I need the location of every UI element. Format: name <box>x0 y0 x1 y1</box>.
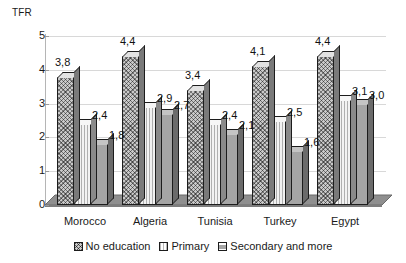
value-label-morocco-secondary-and-more: 1,8 <box>109 130 124 141</box>
y-tick-label-5: 5 <box>23 30 45 41</box>
tfr-bar-chart: TFR 543210 3,82,41,84,42,92,73,42,42,14,… <box>0 0 406 263</box>
legend-swatch-icon <box>74 242 83 251</box>
y-tick-label-1: 1 <box>23 165 45 176</box>
bar-side-face <box>368 93 374 204</box>
bar-turkey-no-education <box>252 66 269 205</box>
bar-morocco-no-education <box>57 77 74 205</box>
value-label-algeria-no-education: 4,4 <box>120 36 135 47</box>
bar-side-face <box>108 133 114 204</box>
value-label-morocco-primary: 2,4 <box>92 110 107 121</box>
y-tick-mark-0 <box>45 205 49 206</box>
y-tick-label-4: 4 <box>23 64 45 75</box>
value-label-egypt-primary: 3,1 <box>352 86 367 97</box>
y-axis-ticks: 543210 <box>0 0 45 263</box>
y-tick-label-0: 0 <box>23 199 45 210</box>
bar-side-face <box>74 66 80 204</box>
bar-side-face <box>238 123 244 204</box>
y-tick-mark-4 <box>45 70 49 71</box>
bar-side-face <box>286 110 292 205</box>
value-label-tunisia-no-education: 3,4 <box>185 70 200 81</box>
legend-item-no-education[interactable]: No education <box>74 240 151 252</box>
y-tick-mark-1 <box>45 171 49 172</box>
gridline-5 <box>45 36 386 37</box>
value-label-egypt-no-education: 4,4 <box>315 36 330 47</box>
chart-legend: No educationPrimarySecondary and more <box>0 240 406 252</box>
value-label-algeria-primary: 2,9 <box>157 93 172 104</box>
value-label-turkey-secondary-and-more: 1,6 <box>304 137 319 148</box>
value-label-tunisia-primary: 2,4 <box>222 110 237 121</box>
bar-side-face <box>156 96 162 204</box>
value-label-turkey-primary: 2,5 <box>287 107 302 118</box>
y-tick-mark-2 <box>45 137 49 138</box>
value-label-tunisia-secondary-and-more: 2,1 <box>239 120 254 131</box>
legend-label: Secondary and more <box>230 240 332 252</box>
bar-tunisia-no-education <box>187 90 204 205</box>
legend-swatch-icon <box>159 242 168 251</box>
bar-egypt-no-education <box>317 56 334 205</box>
legend-label: Primary <box>171 240 209 252</box>
bar-side-face <box>351 89 357 204</box>
legend-item-secondary-and-more[interactable]: Secondary and more <box>218 240 332 252</box>
value-label-egypt-secondary-and-more: 3,0 <box>369 90 384 101</box>
category-label-egypt: Egypt <box>303 215 387 227</box>
legend-item-primary[interactable]: Primary <box>159 240 209 252</box>
bar-side-face <box>204 79 210 204</box>
bar-side-face <box>221 113 227 204</box>
y-tick-label-3: 3 <box>23 98 45 109</box>
value-label-morocco-no-education: 3,8 <box>55 57 70 68</box>
legend-label: No education <box>86 240 151 252</box>
bar-side-face <box>139 45 145 204</box>
bar-side-face <box>303 140 309 204</box>
y-tick-label-2: 2 <box>23 131 45 142</box>
y-tick-mark-5 <box>45 36 49 37</box>
legend-swatch-icon <box>218 242 227 251</box>
y-tick-mark-3 <box>45 104 49 105</box>
bar-algeria-no-education <box>122 56 139 205</box>
bar-side-face <box>334 45 340 204</box>
value-label-turkey-no-education: 4,1 <box>250 46 265 57</box>
bar-side-face <box>269 55 275 204</box>
bar-side-face <box>91 113 97 204</box>
value-label-algeria-secondary-and-more: 2,7 <box>174 100 189 111</box>
bar-side-face <box>173 103 179 204</box>
